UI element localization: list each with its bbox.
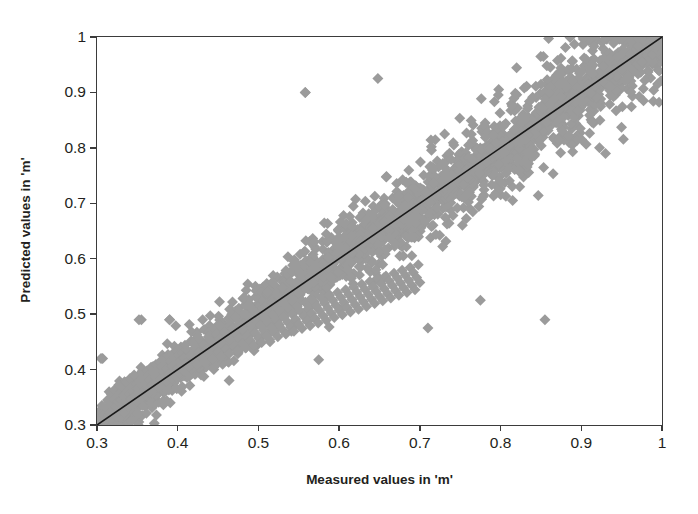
- scatter-point: [224, 375, 235, 386]
- scatter-point: [369, 191, 380, 202]
- y-tick-label: 0.9: [26, 83, 86, 101]
- x-tick-label: 0.5: [228, 434, 288, 452]
- x-tick-label: 0.6: [309, 434, 369, 452]
- scatter-point: [381, 171, 392, 182]
- scatter-point: [214, 296, 225, 307]
- scatter-point: [439, 128, 450, 139]
- scatter-point: [406, 250, 417, 261]
- x-tick-label: 0.7: [390, 434, 450, 452]
- x-tick-label: 0.8: [471, 434, 531, 452]
- scatter-point: [548, 168, 559, 179]
- scatter-point: [533, 190, 544, 201]
- scatter-point: [555, 147, 566, 158]
- x-tick-label: 0.9: [551, 434, 611, 452]
- scatter-point: [372, 73, 383, 84]
- y-tick-label: 0.8: [26, 139, 86, 157]
- scatter-point: [514, 181, 525, 192]
- y-axis-title: Predicted values in 'm': [14, 0, 36, 460]
- reference-line: [97, 37, 662, 425]
- scatter-point: [454, 113, 465, 124]
- scatter-point: [511, 62, 522, 73]
- scatter-point: [618, 134, 629, 145]
- y-tick-label: 0.5: [26, 305, 86, 323]
- y-tick-label: 0.3: [26, 416, 86, 434]
- scatter-point: [415, 157, 426, 168]
- x-tick-label: 1: [632, 434, 692, 452]
- scatter-point: [475, 295, 486, 306]
- scatter-point: [313, 354, 324, 365]
- plot-canvas: [97, 37, 662, 425]
- scatter-point: [422, 323, 433, 334]
- x-axis-title: Measured values in 'm': [97, 472, 662, 487]
- scatter-chart: Predicted values in 'm' 0.30.40.50.60.70…: [0, 0, 698, 514]
- scatter-point: [543, 37, 554, 44]
- scatter-point: [300, 87, 311, 98]
- plot-area: [97, 37, 662, 425]
- scatter-point: [97, 353, 107, 364]
- x-tick-label: 0.3: [67, 434, 127, 452]
- scatter-point: [495, 108, 506, 119]
- scatter-point: [539, 314, 550, 325]
- scatter-point: [476, 93, 487, 104]
- scatter-point: [149, 418, 160, 425]
- y-tick-label: 0.6: [26, 250, 86, 268]
- x-tick-label: 0.4: [148, 434, 208, 452]
- y-tick-label: 1: [26, 28, 86, 46]
- one-to-one-line: [97, 37, 662, 425]
- scatter-point: [538, 162, 549, 173]
- scatter-point: [403, 165, 414, 176]
- scatter-point: [560, 42, 571, 53]
- scatter-point: [584, 128, 595, 139]
- y-tick-label: 0.4: [26, 361, 86, 379]
- y-tick-label: 0.7: [26, 194, 86, 212]
- scatter-point: [616, 122, 627, 133]
